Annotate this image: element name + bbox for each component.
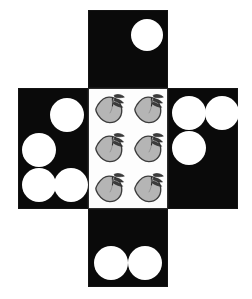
left-panel[interactable]: 4: [18, 88, 88, 209]
fruit-5: [89, 168, 128, 208]
pip-dot: [205, 96, 239, 130]
fruit-6: [128, 168, 167, 208]
peach-icon: [131, 171, 165, 205]
fruit-2: [128, 89, 167, 129]
pip-dot: [54, 168, 88, 202]
pip-dot: [128, 246, 162, 280]
cube-net-diagram: Cube net with dice faces and fruit face …: [0, 0, 252, 299]
fruit-1: [89, 89, 128, 129]
fruit-grid: [89, 89, 167, 208]
peach-icon: [92, 171, 126, 205]
center-panel[interactable]: [88, 88, 168, 209]
top-panel[interactable]: 1: [88, 10, 168, 88]
peach-icon: [131, 92, 165, 126]
peach-icon: [131, 131, 165, 165]
pip-dot: [94, 246, 128, 280]
pip-dot: [172, 96, 206, 130]
right-panel[interactable]: 3: [168, 88, 238, 209]
peach-icon: [92, 131, 126, 165]
fruit-3: [89, 129, 128, 169]
bottom-panel[interactable]: 2: [88, 209, 168, 287]
diagram-title: Cube net with dice faces and fruit face: [0, 21, 1, 22]
peach-icon: [92, 92, 126, 126]
pip-dot: [172, 131, 206, 165]
pip-dot: [22, 133, 56, 167]
pip-dot: [22, 168, 56, 202]
fruit-4: [128, 129, 167, 169]
pip-dot: [50, 98, 84, 132]
left-panel-value: 4: [19, 89, 20, 90]
right-panel-value: 3: [169, 89, 170, 90]
top-panel-value: 1: [89, 11, 90, 12]
bottom-panel-value: 2: [89, 210, 90, 211]
pip-dot: [131, 19, 163, 51]
